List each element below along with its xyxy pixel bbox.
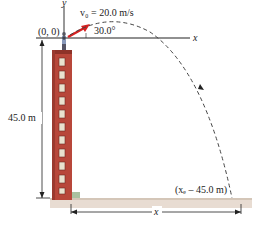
origin-label: (0, 0) bbox=[38, 26, 60, 38]
height-label: 45.0 m bbox=[8, 112, 36, 123]
distance-label: x bbox=[153, 206, 159, 217]
landing-point-label: (xₑ – 45.0 m) bbox=[175, 184, 227, 196]
velocity-label: v₀ = 20.0 m/s bbox=[80, 7, 134, 18]
projectile-diagram: y x (0, 0) v₀ = 20.0 m/s 30.0° 45.0 m (x… bbox=[0, 0, 254, 225]
direction-arrow-icon bbox=[198, 84, 204, 90]
y-axis-label: y bbox=[61, 0, 67, 8]
x-axis-label: x bbox=[192, 32, 198, 43]
building bbox=[52, 50, 80, 200]
angle-label: 30.0° bbox=[94, 25, 116, 36]
trajectory-path bbox=[70, 22, 232, 198]
